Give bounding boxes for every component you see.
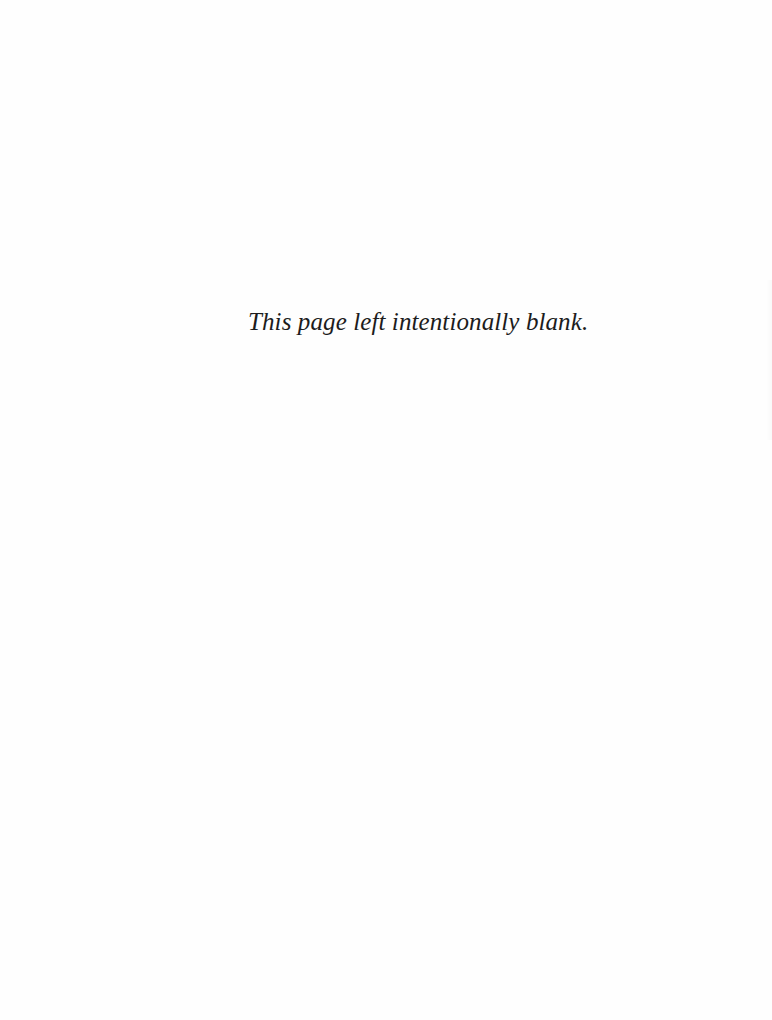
document-page: This page left intentionally blank. (0, 0, 772, 1020)
scan-edge-shadow (766, 280, 772, 440)
blank-page-notice: This page left intentionally blank. (248, 306, 588, 338)
